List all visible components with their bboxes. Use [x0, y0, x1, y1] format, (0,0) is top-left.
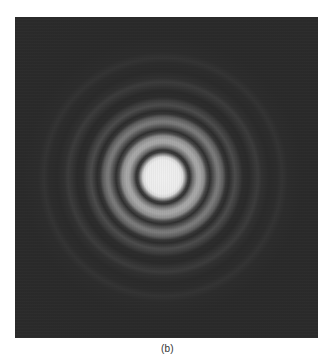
diffraction-pattern-image	[15, 17, 318, 338]
image-grain	[15, 17, 318, 338]
figure-caption: (b)	[0, 343, 335, 354]
